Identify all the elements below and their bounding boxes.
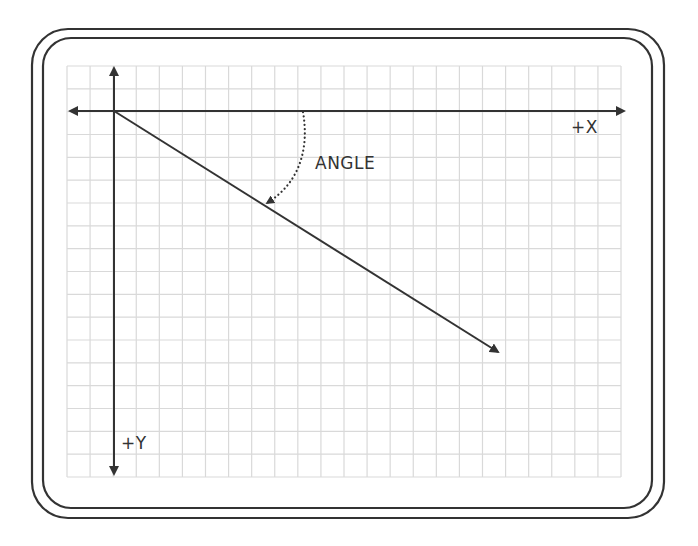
coordinate-diagram: +X +Y ANGLE (0, 0, 698, 546)
y-axis-label: +Y (121, 435, 147, 452)
vector-arrow (114, 111, 498, 352)
angle-label: ANGLE (315, 155, 375, 172)
grid (67, 66, 621, 477)
diagram-canvas (0, 0, 698, 546)
x-axis-label: +X (571, 119, 598, 136)
